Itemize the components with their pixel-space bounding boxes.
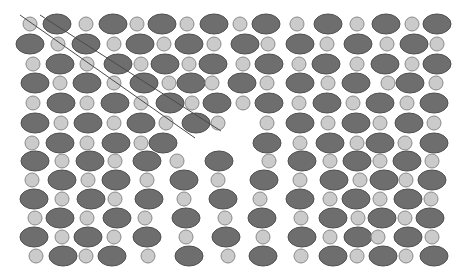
large-atom <box>20 227 48 247</box>
small-atom <box>405 57 419 71</box>
large-atom <box>288 151 316 171</box>
small-atom <box>51 37 65 51</box>
small-atom <box>373 192 387 206</box>
large-atom <box>133 151 161 171</box>
small-atom <box>350 17 364 31</box>
large-atom <box>344 34 372 54</box>
small-atom <box>162 76 176 90</box>
large-atom <box>228 73 256 93</box>
small-atom <box>211 116 225 130</box>
large-atom <box>151 54 179 74</box>
large-atom <box>423 54 451 74</box>
large-atom <box>400 34 428 54</box>
small-atom <box>211 173 225 187</box>
small-atom <box>108 154 122 168</box>
small-atom <box>107 37 121 51</box>
large-atom <box>396 73 424 93</box>
small-atom <box>130 17 144 31</box>
large-atom <box>394 189 422 209</box>
large-atom <box>393 151 421 171</box>
small-atom <box>141 249 155 263</box>
large-atom <box>288 227 316 247</box>
large-atom <box>133 227 161 247</box>
large-atom <box>420 93 448 113</box>
small-atom <box>108 192 122 206</box>
large-atom <box>342 113 370 133</box>
large-atom <box>312 54 340 74</box>
small-atom <box>398 136 412 150</box>
small-atom <box>53 76 67 90</box>
large-atom <box>368 208 396 228</box>
small-atom <box>260 76 274 90</box>
small-atom <box>373 154 387 168</box>
small-atom <box>350 249 364 263</box>
small-atom <box>253 192 267 206</box>
small-atom <box>218 211 232 225</box>
large-atom <box>76 151 104 171</box>
large-atom <box>205 151 233 171</box>
large-atom <box>343 151 371 171</box>
small-atom <box>134 136 148 150</box>
small-atom <box>290 17 304 31</box>
large-atom <box>250 170 278 190</box>
small-atom <box>424 192 438 206</box>
large-atom <box>99 14 127 34</box>
large-atom <box>423 14 451 34</box>
large-atom <box>199 54 227 74</box>
small-atom <box>134 57 148 71</box>
large-atom <box>394 227 422 247</box>
small-atom <box>233 17 247 31</box>
small-atom <box>425 230 439 244</box>
large-atom <box>74 113 102 133</box>
large-atom <box>135 189 163 209</box>
large-atom <box>156 93 184 113</box>
large-atom <box>286 34 314 54</box>
large-atom <box>200 14 228 34</box>
small-atom <box>79 17 93 31</box>
small-atom <box>29 249 43 263</box>
large-atom <box>177 73 205 93</box>
small-atom <box>177 192 191 206</box>
large-atom <box>49 246 77 266</box>
large-atom <box>286 189 314 209</box>
large-atom <box>342 73 370 93</box>
small-atom <box>320 37 334 51</box>
large-atom <box>344 227 372 247</box>
small-atom <box>54 116 68 130</box>
large-atom <box>47 93 75 113</box>
large-atom <box>319 246 347 266</box>
large-atom <box>316 133 344 153</box>
large-atom <box>46 54 74 74</box>
large-atom <box>98 246 126 266</box>
small-atom <box>321 116 335 130</box>
small-atom <box>179 230 193 244</box>
large-atom <box>46 208 74 228</box>
large-atom <box>286 73 314 93</box>
small-atom <box>25 173 39 187</box>
small-atom <box>429 76 443 90</box>
small-atom <box>236 96 250 110</box>
small-atom <box>294 211 308 225</box>
small-atom <box>398 211 412 225</box>
small-atom <box>221 249 235 263</box>
small-atom <box>28 211 42 225</box>
large-atom <box>420 133 448 153</box>
small-atom <box>427 116 441 130</box>
large-atom <box>101 93 129 113</box>
small-atom <box>346 96 360 110</box>
large-atom <box>102 133 130 153</box>
small-atom <box>80 211 94 225</box>
small-atom <box>25 136 39 150</box>
small-atom <box>26 57 40 71</box>
large-atom <box>130 73 158 93</box>
large-atom <box>418 170 446 190</box>
large-atom <box>127 113 155 133</box>
small-atom <box>182 57 196 71</box>
small-atom <box>180 17 194 31</box>
large-atom <box>416 208 444 228</box>
small-atom <box>350 136 364 150</box>
small-atom <box>157 37 171 51</box>
large-atom <box>420 246 448 266</box>
large-atom <box>319 208 347 228</box>
small-atom <box>205 76 219 90</box>
